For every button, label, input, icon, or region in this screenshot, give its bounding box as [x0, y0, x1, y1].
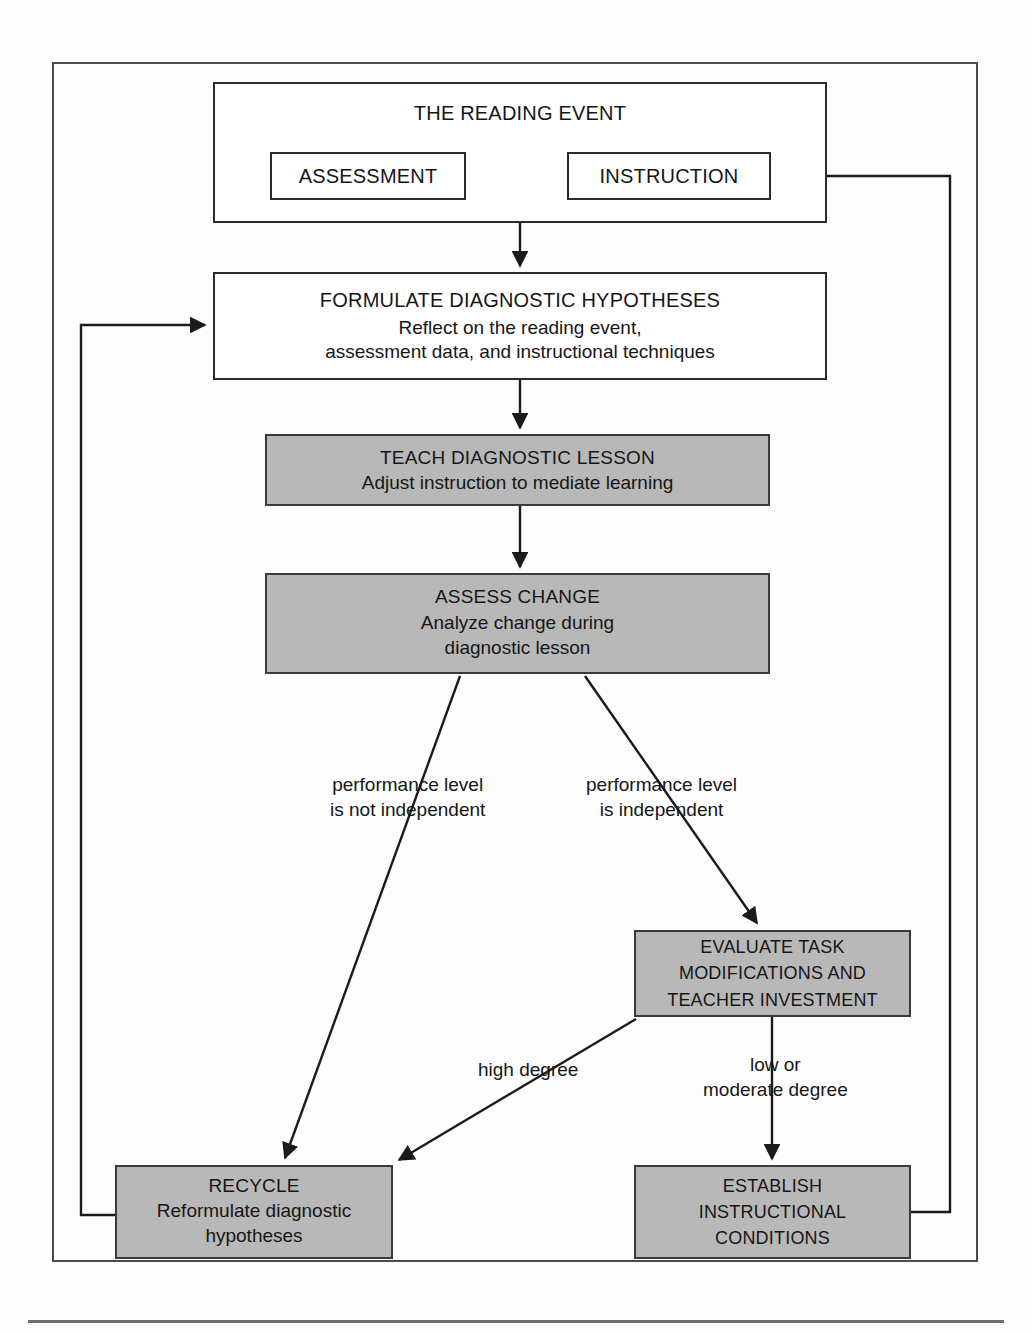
- node-formulate-subtitle-line-1: Reflect on the reading event,: [399, 316, 642, 340]
- edge-label-low-or-moderate-line-1: low or: [703, 1053, 848, 1078]
- node-reading-event-title: THE READING EVENT: [414, 102, 626, 125]
- node-establish-title-line-2: INSTRUCTIONAL: [699, 1199, 847, 1225]
- edge-label-low-or-moderate-line-2: moderate degree: [703, 1078, 848, 1103]
- node-teach-title: TEACH DIAGNOSTIC LESSON: [380, 447, 655, 469]
- node-assess-change-subtitle-line-1: Analyze change during: [421, 611, 614, 636]
- node-establish-title-line-1: ESTABLISH: [723, 1173, 823, 1199]
- node-evaluate-task-modifications[interactable]: EVALUATE TASK MODIFICATIONS AND TEACHER …: [634, 930, 911, 1017]
- node-evaluate-title-line-3: TEACHER INVESTMENT: [667, 987, 878, 1013]
- node-formulate-title: FORMULATE DIAGNOSTIC HYPOTHESES: [320, 289, 720, 312]
- node-assess-change-title: ASSESS CHANGE: [435, 586, 600, 608]
- node-recycle-subtitle-line-1: Reformulate diagnostic: [157, 1199, 351, 1224]
- node-assessment-title: ASSESSMENT: [299, 165, 438, 188]
- node-formulate-subtitle-line-2: assessment data, and instructional techn…: [325, 340, 715, 364]
- node-assess-change-subtitle-line-2: diagnostic lesson: [445, 636, 591, 661]
- edge-label-not-independent-line-2: is not independent: [330, 798, 485, 823]
- node-instruction[interactable]: INSTRUCTION: [567, 152, 771, 200]
- edge-label-independent: performance level is independent: [586, 773, 737, 822]
- edge-label-high-degree-text: high degree: [478, 1058, 578, 1083]
- node-assess-change[interactable]: ASSESS CHANGE Analyze change during diag…: [265, 573, 770, 674]
- bottom-horizontal-rule: [28, 1320, 1004, 1323]
- node-teach-subtitle-line-1: Adjust instruction to mediate learning: [362, 472, 674, 494]
- node-establish-title-line-3: CONDITIONS: [715, 1225, 830, 1251]
- node-assessment[interactable]: ASSESSMENT: [270, 152, 466, 200]
- edge-label-low-or-moderate-degree: low or moderate degree: [703, 1053, 848, 1102]
- node-instruction-title: INSTRUCTION: [600, 165, 739, 188]
- edge-label-high-degree: high degree: [478, 1058, 578, 1083]
- node-evaluate-title-line-2: MODIFICATIONS AND: [679, 960, 866, 986]
- edge-label-not-independent-line-1: performance level: [330, 773, 485, 798]
- node-recycle-subtitle-line-2: hypotheses: [205, 1224, 302, 1249]
- edge-label-independent-line-1: performance level: [586, 773, 737, 798]
- node-formulate-diagnostic-hypotheses[interactable]: FORMULATE DIAGNOSTIC HYPOTHESES Reflect …: [213, 272, 827, 380]
- diagram-page: THE READING EVENT ASSESSMENT INSTRUCTION…: [0, 0, 1032, 1333]
- node-recycle-title: RECYCLE: [208, 1175, 299, 1197]
- node-recycle[interactable]: RECYCLE Reformulate diagnostic hypothese…: [115, 1165, 393, 1259]
- node-teach-diagnostic-lesson[interactable]: TEACH DIAGNOSTIC LESSON Adjust instructi…: [265, 434, 770, 506]
- node-evaluate-title-line-1: EVALUATE TASK: [700, 934, 844, 960]
- edge-label-independent-line-2: is independent: [586, 798, 737, 823]
- node-establish-instructional-conditions[interactable]: ESTABLISH INSTRUCTIONAL CONDITIONS: [634, 1165, 911, 1259]
- edge-label-not-independent: performance level is not independent: [330, 773, 485, 822]
